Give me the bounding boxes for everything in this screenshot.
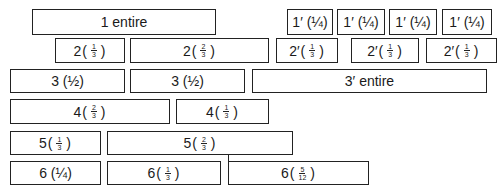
cut-off-caption-text: [0, 0, 504, 4]
fraction-numerator: 5: [299, 166, 305, 174]
piece-label: 2′ (13): [367, 43, 403, 59]
open-paren: (: [455, 43, 460, 59]
close-paren: ): [319, 43, 324, 59]
fraction-denominator: 3: [92, 112, 96, 119]
piece-box-5a: 5 (13): [10, 131, 101, 155]
piece-box-5b: 5 (23): [107, 131, 293, 155]
piece-number: 2′: [289, 43, 299, 59]
piece-box-2p-a: 2′ (13): [276, 38, 338, 63]
piece-box-3p: 3′ entire: [252, 69, 487, 93]
piece-box-1: 1 entire: [32, 9, 216, 35]
piece-label: 2 (13): [73, 43, 106, 59]
piece-label: 4 (23): [73, 104, 106, 120]
piece-label: 6 (13): [147, 165, 180, 181]
close-paren: ): [397, 43, 402, 59]
piece-label: 5 (13): [39, 135, 72, 151]
close-paren: ): [474, 43, 479, 59]
close-paren: ): [101, 104, 106, 120]
piece-number: 6: [281, 165, 289, 181]
fraction: 13: [165, 166, 171, 181]
piece-box-2p-c: 2′ (13): [426, 38, 497, 63]
fraction-numerator: 2: [200, 43, 206, 51]
fraction: 13: [387, 43, 393, 58]
piece-label: 5 (23): [183, 135, 216, 151]
close-paren: ): [211, 135, 216, 151]
close-paren: ): [310, 165, 315, 181]
open-paren: (: [290, 165, 295, 181]
fraction: 512: [299, 166, 307, 181]
piece-box-3a: 3 (½): [10, 69, 125, 93]
piece-box-6a: 6 (¼): [10, 161, 101, 185]
piece-label: 2′ (13): [289, 43, 325, 59]
piece-box-2p-b: 2′ (13): [351, 38, 419, 63]
open-paren: (: [82, 104, 87, 120]
fraction: 13: [464, 43, 470, 58]
piece-box-4b: 4 (13): [176, 99, 269, 124]
fraction-numerator: 2: [91, 104, 97, 112]
fraction: 13: [223, 104, 229, 119]
piece-number: 5: [183, 135, 191, 151]
piece-label: 2′ (13): [444, 43, 480, 59]
piece-number: 5: [39, 135, 47, 151]
open-paren: (: [215, 104, 220, 120]
piece-box-3b: 3 (½): [130, 69, 245, 93]
piece-label: 3 (½): [171, 73, 204, 89]
close-paren: ): [101, 43, 106, 59]
fraction: 13: [91, 43, 97, 58]
fraction: 23: [201, 136, 207, 151]
piece-box-1p-c: 1′ (¼): [389, 9, 437, 35]
piece-box-1p-a: 1′ (¼): [287, 9, 333, 35]
fraction: 23: [91, 104, 97, 119]
fraction-denominator: 3: [388, 51, 392, 58]
fraction-denominator: 3: [201, 51, 205, 58]
fraction-numerator: 1: [165, 166, 171, 174]
fraction-denominator: 3: [202, 144, 206, 151]
piece-label: 6 (512): [281, 165, 316, 181]
piece-box-6c: 6 (512): [228, 161, 369, 185]
open-paren: (: [192, 43, 197, 59]
piece-label: 1 entire: [101, 14, 148, 30]
piece-number: 2′: [367, 43, 377, 59]
piece-label: 1′ (¼): [343, 14, 378, 30]
fraction-denominator: 12: [299, 174, 307, 181]
fraction-denominator: 3: [310, 51, 314, 58]
open-paren: (: [192, 135, 197, 151]
piece-number: 2: [73, 43, 81, 59]
close-paren: ): [233, 104, 238, 120]
fraction-numerator: 1: [91, 43, 97, 51]
piece-label: 6 (¼): [39, 165, 72, 181]
piece-label: 1′ (¼): [395, 14, 430, 30]
piece-box-2a: 2 (13): [55, 38, 125, 63]
piece-box-6b: 6 (13): [107, 161, 221, 185]
open-paren: (: [156, 165, 161, 181]
fraction: 13: [56, 136, 62, 151]
piece-number: 4: [73, 104, 81, 120]
fraction-denominator: 3: [465, 51, 469, 58]
close-paren: ): [175, 165, 180, 181]
piece-label: 1′ (¼): [449, 14, 484, 30]
fraction-denominator: 3: [92, 51, 96, 58]
open-paren: (: [48, 135, 53, 151]
piece-label: 3 (½): [51, 73, 84, 89]
open-paren: (: [82, 43, 87, 59]
piece-box-1p-d: 1′ (¼): [442, 9, 492, 35]
fraction-numerator: 1: [309, 43, 315, 51]
piece-label: 4 (13): [206, 104, 239, 120]
fraction-denominator: 3: [166, 174, 170, 181]
piece-label: 1′ (¼): [292, 14, 327, 30]
open-paren: (: [379, 43, 384, 59]
piece-label: 3′ entire: [345, 73, 394, 89]
connector-line: [228, 155, 229, 161]
fraction: 23: [200, 43, 206, 58]
fraction-numerator: 1: [464, 43, 470, 51]
piece-box-1p-b: 1′ (¼): [337, 9, 385, 35]
piece-label: 2 (23): [183, 43, 216, 59]
fraction-numerator: 1: [223, 104, 229, 112]
piece-number: 2: [183, 43, 191, 59]
close-paren: ): [66, 135, 71, 151]
fraction-numerator: 1: [387, 43, 393, 51]
fraction: 13: [309, 43, 315, 58]
piece-number: 4: [206, 104, 214, 120]
piece-number: 2′: [444, 43, 454, 59]
close-paren: ): [210, 43, 215, 59]
